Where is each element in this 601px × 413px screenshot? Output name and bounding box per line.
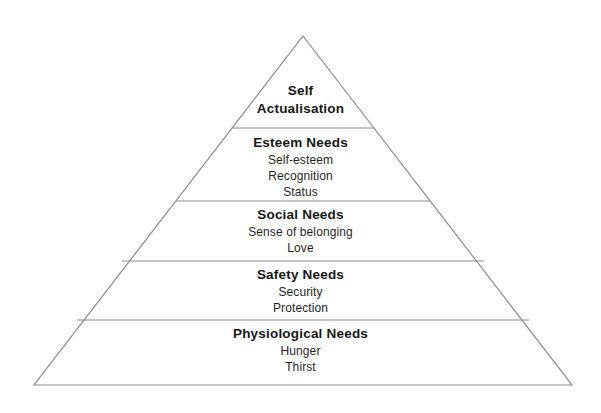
tier-title-self-actualisation-line1: Self — [0, 84, 601, 98]
tier-item-esteem-2: Recognition — [0, 170, 601, 182]
tier-item-social-2: Love — [0, 242, 601, 254]
pyramid-diagram: Self Actualisation Esteem Needs Self-est… — [0, 0, 601, 413]
tier-item-social-1: Sense of belonging — [0, 226, 601, 238]
pyramid-tier-social: Social Needs Sense of belonging Love — [0, 208, 601, 254]
tier-title-safety: Safety Needs — [0, 268, 601, 282]
tier-title-self-actualisation-line2: Actualisation — [0, 102, 601, 116]
tier-title-social: Social Needs — [0, 208, 601, 222]
tier-item-physiological-1: Hunger — [0, 345, 601, 357]
pyramid-tier-physiological: Physiological Needs Hunger Thirst — [0, 327, 601, 373]
tier-item-esteem-3: Status — [0, 186, 601, 198]
tier-title-physiological: Physiological Needs — [0, 327, 601, 341]
tier-item-safety-1: Security — [0, 286, 601, 298]
pyramid-tier-self-actualisation: Self Actualisation — [0, 84, 601, 115]
tier-item-esteem-1: Self-esteem — [0, 154, 601, 166]
tier-item-physiological-2: Thirst — [0, 361, 601, 373]
pyramid-tier-safety: Safety Needs Security Protection — [0, 268, 601, 314]
pyramid-tier-esteem: Esteem Needs Self-esteem Recognition Sta… — [0, 136, 601, 198]
tier-title-esteem: Esteem Needs — [0, 136, 601, 150]
tier-item-safety-2: Protection — [0, 302, 601, 314]
